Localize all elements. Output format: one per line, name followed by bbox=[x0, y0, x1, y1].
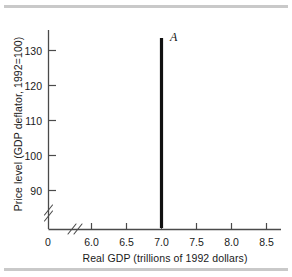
x-tick-marks bbox=[92, 223, 267, 230]
y-tick-label-120: 120 bbox=[8, 80, 42, 92]
x-axis-origin-label: 0 bbox=[28, 236, 68, 248]
y-tick-label-110: 110 bbox=[8, 115, 42, 127]
x-tick-label-8-5: 8.5 bbox=[247, 236, 287, 248]
x-tick-label-8-0: 8.0 bbox=[212, 236, 252, 248]
y-tick-label-100: 100 bbox=[8, 150, 42, 162]
y-tick-label-90: 90 bbox=[8, 185, 42, 197]
x-tick-label-7-0: 7.0 bbox=[142, 236, 182, 248]
y-tick-label-130: 130 bbox=[8, 45, 42, 57]
y-tick-marks bbox=[49, 51, 57, 191]
x-axis-title: Real GDP (trillions of 1992 dollars) bbox=[40, 252, 290, 264]
x-tick-label-6-5: 6.5 bbox=[107, 236, 147, 248]
x-tick-label-6-0: 6.0 bbox=[72, 236, 112, 248]
x-tick-label-7-5: 7.5 bbox=[177, 236, 217, 248]
figure-container: Price level (GDP deflator, 1992=100) Rea… bbox=[0, 0, 292, 277]
curve-annotation-a: A bbox=[170, 30, 177, 45]
